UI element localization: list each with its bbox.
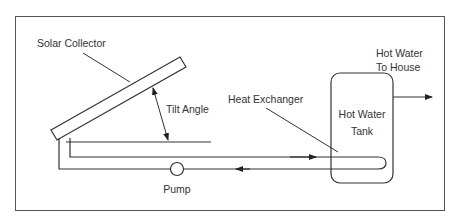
solar-water-heater-diagram: Solar Collector Tilt Angle Pump Hot Wate…	[0, 0, 461, 221]
tilt-angle-label: Tilt Angle	[166, 103, 209, 115]
tank-label-line1: Hot Water	[339, 108, 386, 120]
output-label-line1: Hot Water	[376, 47, 423, 59]
pump-label: Pump	[163, 183, 191, 195]
solar-collector-leader	[83, 53, 130, 82]
heat-exchanger-coil	[330, 157, 386, 169]
supply-pipe	[70, 138, 345, 157]
output-label-line2: To House	[376, 61, 421, 73]
heat-exchanger-label: Heat Exchanger	[228, 93, 304, 105]
pump-icon	[171, 163, 184, 176]
solar-collector-panel	[51, 57, 186, 140]
solar-collector-label: Solar Collector	[37, 37, 106, 49]
return-pipe	[59, 138, 330, 169]
heat-exchanger-leader	[266, 108, 338, 152]
tank-label-line2: Tank	[351, 125, 374, 137]
